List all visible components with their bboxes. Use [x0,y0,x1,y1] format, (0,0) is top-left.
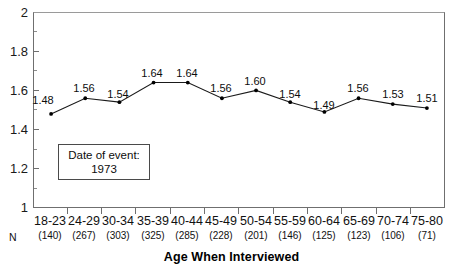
point-value-label: 1.60 [237,75,273,87]
n-row-label: N [9,231,17,243]
data-point-marker [83,96,87,100]
x-axis-n-count: (71) [403,230,451,242]
point-value-label: 1.54 [272,88,308,100]
data-point-marker [391,102,395,106]
point-value-label: 1.56 [203,82,239,94]
annotation-line-2: 1973 [59,162,149,176]
point-value-label: 1.51 [409,92,445,104]
data-point-marker [186,81,190,85]
line-chart: 2 1.8 1.6 1.4 1.2 1 1.48 1.56 1.54 1.64 … [0,0,463,272]
point-value-label: 1.56 [340,82,376,94]
point-value-label: 1.53 [375,88,411,100]
data-point-marker [49,112,53,116]
point-value-label: 1.49 [306,99,342,111]
point-value-label: 1.64 [169,67,205,79]
data-point-marker [425,106,429,110]
data-point-marker [357,96,361,100]
point-value-label: 1.48 [25,94,61,106]
x-axis-category-label: 75-80 [403,214,451,228]
data-point-marker [254,89,258,93]
data-point-marker [118,100,122,104]
data-point-marker [288,100,292,104]
point-value-label: 1.54 [100,88,136,100]
x-axis-title: Age When Interviewed [0,250,463,264]
point-value-label: 1.64 [134,67,170,79]
annotation-line-1: Date of event: [59,148,149,162]
data-point-marker [220,96,224,100]
annotation-box: Date of event: 1973 [58,144,150,180]
data-point-marker [152,81,156,85]
point-value-label: 1.56 [66,82,102,94]
